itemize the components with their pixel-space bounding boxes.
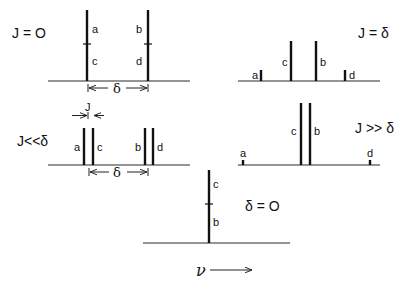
condition-label: J<<δ	[17, 133, 48, 149]
condition-label: J >> δ	[355, 120, 394, 136]
delta-dimension: δ	[88, 81, 148, 96]
peak-label-a: a	[240, 147, 247, 159]
peak-label-b: b	[314, 125, 320, 137]
peak-label-b: b	[136, 23, 142, 35]
nmr-ab-spectra-diagram: J = O a c b d δ J = δ a c b d J<<δ	[0, 0, 409, 293]
peak-label-a: a	[74, 141, 81, 153]
peak-label-c: c	[291, 125, 297, 137]
peak-label-c: c	[213, 178, 219, 190]
panel-delta-zero: δ = O c b	[143, 170, 290, 243]
panel-j-much-less-delta: J<<δ a c b d J δ	[17, 101, 190, 180]
peak-label-d: d	[136, 55, 142, 67]
peak-label-d: d	[367, 147, 373, 159]
delta-dimension: δ	[89, 165, 148, 180]
delta-label: δ	[113, 165, 121, 180]
peak-label-b: b	[135, 141, 141, 153]
condition-label: J = δ	[358, 25, 389, 41]
peak-label-c: c	[97, 141, 103, 153]
peak-label-b: b	[320, 56, 326, 68]
panel-j-much-greater-delta: J >> δ a c b d	[238, 103, 394, 165]
panel-j-equals-delta: J = δ a c b d	[238, 25, 389, 81]
condition-label: δ = O	[245, 198, 280, 214]
frequency-axis-label: ν	[196, 261, 252, 280]
peak-label-c: c	[92, 55, 98, 67]
coupling-dimension: J	[72, 101, 104, 119]
peak-label-d: d	[349, 69, 355, 81]
peak-label-c: c	[282, 56, 288, 68]
nu-label: ν	[196, 261, 206, 280]
peak-label-a: a	[252, 69, 259, 81]
peak-label-d: d	[157, 141, 163, 153]
delta-label: δ	[113, 81, 121, 96]
panel-j-zero: J = O a c b d δ	[12, 10, 190, 96]
condition-label: J = O	[12, 25, 46, 41]
coupling-label: J	[85, 101, 91, 113]
peak-label-b: b	[213, 216, 219, 228]
peak-label-a: a	[92, 23, 99, 35]
